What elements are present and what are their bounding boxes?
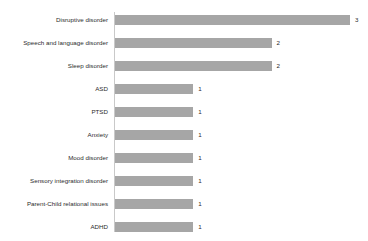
category-label: Speech and language disorder <box>0 39 108 47</box>
bar <box>115 199 193 209</box>
bar-row: ASD1 <box>0 78 368 100</box>
bar-value-label: 1 <box>198 131 201 139</box>
bar <box>115 61 272 71</box>
bar <box>115 84 193 94</box>
bar-row: Parent-Child relational issues1 <box>0 193 368 215</box>
bar-value-label: 1 <box>198 177 201 185</box>
bar-value-label: 1 <box>198 223 201 231</box>
bar <box>115 130 193 140</box>
bar-row: Sensory integration disorder1 <box>0 170 368 192</box>
category-label: ADHD <box>0 223 108 231</box>
bar <box>115 153 193 163</box>
category-label: Anxiety <box>0 131 108 139</box>
bar-row: Mood disorder1 <box>0 147 368 169</box>
bar <box>115 15 350 25</box>
category-label: PTSD <box>0 108 108 116</box>
category-label: Disruptive disorder <box>0 16 108 24</box>
bar-row: Speech and language disorder2 <box>0 32 368 54</box>
bar <box>115 176 193 186</box>
bar <box>115 222 193 232</box>
category-label: Mood disorder <box>0 154 108 162</box>
bar-row: Disruptive disorder3 <box>0 9 368 31</box>
bar-row: ADHD1 <box>0 216 368 238</box>
category-label: ASD <box>0 85 108 93</box>
bar-chart: Disruptive disorder3Speech and language … <box>0 0 368 241</box>
bar-row: Anxiety1 <box>0 124 368 146</box>
bar <box>115 107 193 117</box>
bar-value-label: 1 <box>198 200 201 208</box>
bar-value-label: 1 <box>198 154 201 162</box>
bar-row: PTSD1 <box>0 101 368 123</box>
bar <box>115 38 272 48</box>
bar-row: Sleep disorder2 <box>0 55 368 77</box>
category-label: Sleep disorder <box>0 62 108 70</box>
bar-value-label: 3 <box>355 16 358 24</box>
bar-value-label: 2 <box>277 62 280 70</box>
category-label: Sensory integration disorder <box>0 177 108 185</box>
category-label: Parent-Child relational issues <box>0 200 108 208</box>
bar-value-label: 1 <box>198 108 201 116</box>
bar-value-label: 2 <box>277 39 280 47</box>
bar-value-label: 1 <box>198 85 201 93</box>
